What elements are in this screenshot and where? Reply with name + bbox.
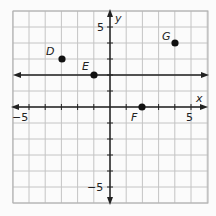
arrow-left-icon — [13, 72, 21, 78]
coordinate-plane: y x −5 5 5 −5 D E F G — [0, 0, 216, 216]
x-axis-label: x — [195, 92, 203, 105]
point-G — [171, 39, 178, 46]
x-tick-label-neg5: −5 — [12, 111, 28, 124]
point-E — [90, 71, 97, 78]
arrow-left-icon — [11, 104, 19, 110]
y-tick-label-neg5: −5 — [87, 181, 103, 194]
horizontal-line-y2 — [13, 72, 209, 78]
y-axis-label: y — [114, 12, 122, 25]
arrow-up-icon — [107, 9, 113, 17]
point-D — [58, 55, 65, 62]
point-D-label: D — [46, 45, 54, 58]
point-G-label: G — [162, 30, 171, 43]
x-tick-label-5: 5 — [186, 111, 193, 124]
point-E-label: E — [82, 60, 89, 73]
arrow-down-icon — [107, 197, 113, 205]
point-F-label: F — [131, 111, 138, 124]
point-F — [138, 103, 145, 110]
y-tick-label-5: 5 — [97, 21, 104, 34]
